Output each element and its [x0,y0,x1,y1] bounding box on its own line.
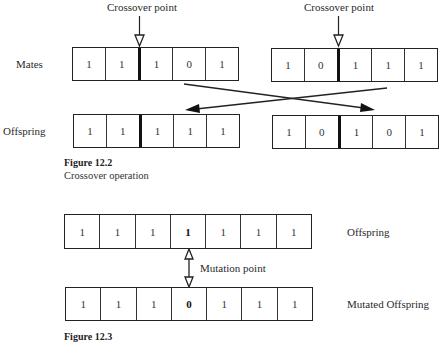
gene-cell: 1 [137,288,172,320]
gene-cell: 1 [207,288,242,320]
mutated-offspring-chromosome: 1 1 1 0 1 1 1 [65,287,313,321]
mutated-offspring-label: Mutated Offspring [347,298,429,310]
offspring-chromosome: 1 1 1 1 1 1 1 [64,214,312,249]
mutated-gene-cell: 0 [172,288,207,320]
gene-cell: 1 [136,215,171,248]
gene-cell: 1 [277,215,311,248]
mutation-double-arrow-icon [185,249,193,287]
crossover-arrow-right-icon [334,16,343,46]
gene-cell: 1 [66,288,101,320]
mutation-point-label: Mutation point [200,262,266,274]
gene-cell: 1 [242,288,277,320]
figure-12-2-title: Figure 12.2 [64,157,112,168]
gene-cell: 1 [206,215,241,248]
gene-cell: 1 [101,288,136,320]
gene-cell: 1 [65,215,100,248]
gene-cell: 1 [241,215,276,248]
gene-cell: 1 [100,215,135,248]
figure-12-3-title: Figure 12.3 [64,331,112,342]
mutation-gene-cell: 1 [171,215,206,248]
figure-12-2-caption: Crossover operation [64,170,149,181]
offspring-label: Offspring [347,226,390,238]
crossover-swap-arrow-left-icon [185,88,387,113]
gene-cell: 1 [278,288,312,320]
crossover-arrow-left-icon [135,16,144,46]
